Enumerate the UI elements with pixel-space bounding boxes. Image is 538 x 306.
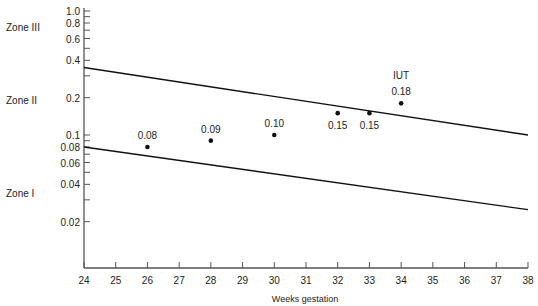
x-tick-label: 26 <box>142 275 154 286</box>
x-tick-label: 28 <box>205 275 217 286</box>
data-point <box>399 101 404 106</box>
data-point-label: 0.15 <box>360 120 380 131</box>
y-tick-label: 0.8 <box>66 18 80 29</box>
data-point <box>145 145 150 150</box>
x-tick-label: 37 <box>491 275 503 286</box>
iut-annotation: IUT <box>393 70 409 81</box>
data-point-label: 0.08 <box>138 130 158 141</box>
x-axis-title: Weeks gestation <box>272 294 338 304</box>
data-point-label: 0.09 <box>201 124 221 135</box>
x-tick-label: 29 <box>237 275 249 286</box>
zone-boundary-line <box>84 147 528 210</box>
x-tick-label: 31 <box>300 275 312 286</box>
chart: 2425262728293031323334353637381.00.80.60… <box>0 0 538 306</box>
x-tick-label: 25 <box>110 275 122 286</box>
data-point <box>209 138 214 143</box>
data-point-label: 0.18 <box>391 86 411 97</box>
y-tick-label: 1.0 <box>66 6 80 17</box>
y-tick-label: 0.1 <box>66 130 80 141</box>
y-tick-label: 0.04 <box>61 179 81 190</box>
data-point-label: 0.10 <box>265 118 285 129</box>
data-point <box>335 111 340 116</box>
x-tick-label: 32 <box>332 275 344 286</box>
y-tick-label: 0.08 <box>61 142 81 153</box>
y-tick-label: 0.02 <box>61 217 81 228</box>
y-tick-label: 0.2 <box>66 93 80 104</box>
zone-label: Zone III <box>6 22 40 33</box>
data-point <box>367 111 372 116</box>
x-tick-label: 24 <box>78 275 90 286</box>
x-tick-label: 36 <box>459 275 471 286</box>
zone-boundary-line <box>84 68 528 135</box>
zone-label: Zone II <box>6 95 37 106</box>
x-tick-label: 33 <box>364 275 376 286</box>
x-tick-label: 30 <box>269 275 281 286</box>
y-tick-label: 0.06 <box>61 158 81 169</box>
x-tick-label: 27 <box>174 275 186 286</box>
y-tick-label: 0.6 <box>66 34 80 45</box>
x-tick-label: 35 <box>427 275 439 286</box>
data-point-label: 0.15 <box>328 120 348 131</box>
x-tick-label: 38 <box>522 275 534 286</box>
zone-label: Zone I <box>6 188 34 199</box>
y-tick-label: 0.4 <box>66 55 80 66</box>
x-tick-label: 34 <box>396 275 408 286</box>
data-point <box>272 133 277 138</box>
